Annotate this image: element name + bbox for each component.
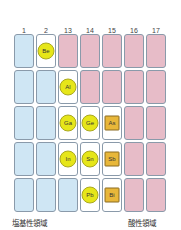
group-header-1: 1: [13, 27, 35, 34]
table-cell: Ga: [58, 106, 78, 140]
group-header-15: 15: [101, 27, 123, 34]
table-cell: Bi: [102, 178, 122, 212]
element-ga: Ga: [60, 115, 77, 132]
group-header-17: 17: [145, 27, 167, 34]
element-sn: Sn: [82, 151, 99, 168]
table-cell: [102, 34, 122, 68]
table-cell: As: [102, 106, 122, 140]
table-cell: [36, 106, 56, 140]
element-bi: Bi: [105, 188, 120, 203]
group-header-16: 16: [123, 27, 145, 34]
table-cell: [146, 178, 166, 212]
table-cell: [80, 70, 100, 104]
basic-region-label: 塩基性領域: [12, 217, 47, 228]
table-cell: [124, 70, 144, 104]
table-cell: Sb: [102, 142, 122, 176]
table-cell: [146, 142, 166, 176]
element-al: Al: [60, 79, 77, 96]
table-cell: [36, 178, 56, 212]
table-cell: [14, 178, 34, 212]
element-be: Be: [38, 43, 55, 60]
table-cell: [124, 34, 144, 68]
table-cell: [14, 34, 34, 68]
table-cell: [146, 34, 166, 68]
table-cell: [102, 70, 122, 104]
table-cell: Al: [58, 70, 78, 104]
table-cell: [36, 70, 56, 104]
table-cell: Ge: [80, 106, 100, 140]
table-cell: [146, 70, 166, 104]
table-cell: Be: [36, 34, 56, 68]
table-cell: Sn: [80, 142, 100, 176]
group-header-2: 2: [35, 27, 57, 34]
table-cell: [36, 142, 56, 176]
table-cell: [14, 106, 34, 140]
element-as: As: [105, 116, 120, 131]
table-cell: In: [58, 142, 78, 176]
element-in: In: [60, 151, 77, 168]
element-pb: Pb: [82, 187, 99, 204]
table-cell: [80, 34, 100, 68]
table-cell: [58, 34, 78, 68]
group-header-14: 14: [79, 27, 101, 34]
table-cell: Pb: [80, 178, 100, 212]
table-cell: [124, 106, 144, 140]
element-ge: Ge: [82, 115, 99, 132]
element-sb: Sb: [105, 152, 120, 167]
table-cell: [124, 178, 144, 212]
table-cell: [14, 142, 34, 176]
table-cell: [14, 70, 34, 104]
table-cell: [146, 106, 166, 140]
acidic-region-label: 酸性領域: [128, 217, 156, 228]
group-header-13: 13: [57, 27, 79, 34]
table-cell: [58, 178, 78, 212]
table-cell: [124, 142, 144, 176]
